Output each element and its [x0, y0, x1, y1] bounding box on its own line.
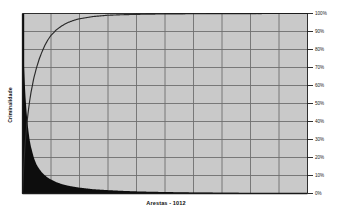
y-tick-label: 30%	[315, 137, 324, 142]
y-tick-label: 100%	[315, 11, 327, 16]
y-tick-label: 50%	[315, 101, 324, 106]
y-tick-label: 70%	[315, 65, 324, 70]
y-tick-label: 10%	[315, 173, 324, 178]
y-tick-label: 40%	[315, 119, 324, 124]
y-tick-label: 20%	[315, 155, 324, 160]
y-axis-title: Criminalidade	[7, 87, 13, 123]
y-tick-label: 80%	[315, 47, 324, 52]
x-axis-title: Arestas - 1012	[146, 200, 185, 206]
pareto-chart: 0%10%20%30%40%50%60%70%80%90%100% Crimin…	[0, 0, 340, 219]
y-tick-label: 90%	[315, 29, 324, 34]
y-tick-label: 60%	[315, 83, 324, 88]
y-tick-label: 0%	[315, 191, 322, 196]
chart-canvas: 0%10%20%30%40%50%60%70%80%90%100%	[0, 0, 340, 219]
